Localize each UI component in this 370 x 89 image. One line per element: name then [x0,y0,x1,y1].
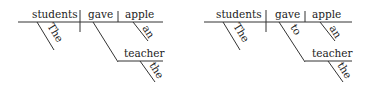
indirect-object-word: teacher [124,47,166,59]
diagram-without-preposition: students gave apple The an teacher the [18,8,167,82]
subject-word: students [216,8,262,20]
verb-word: gave [275,8,300,20]
subject-word: students [32,8,78,20]
indirect-object-slant [93,22,118,62]
indirect-object-word: teacher [312,47,354,59]
object-modifier-word: an [327,23,344,41]
direct-object-word: apple [312,8,341,20]
indirect-modifier-word: the [147,60,166,81]
indirect-modifier-word: the [335,60,354,81]
object-modifier-word: an [140,23,157,41]
diagram-with-preposition: students gave apple The an to teacher th… [204,8,355,82]
verb-word: gave [88,8,113,20]
direct-object-word: apple [125,8,154,20]
preposition-word: to [288,22,304,37]
sentence-diagrams: students gave apple The an teacher the s… [0,0,370,89]
